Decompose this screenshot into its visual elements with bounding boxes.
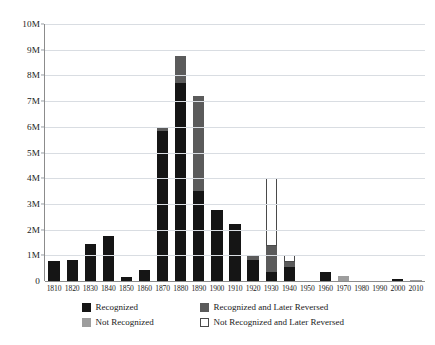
bar-group[interactable]: 1840 <box>103 236 114 281</box>
x-axis-tick-label: 1950 <box>298 284 316 293</box>
y-axis-tick-label: 5M <box>27 147 40 157</box>
gridline: 6M <box>45 127 425 128</box>
bar-chart: 1810182018301840185018601870188018901900… <box>0 0 435 345</box>
legend-item[interactable]: Not Recognized <box>82 318 200 327</box>
y-axis-tick-mark <box>41 126 44 127</box>
bar-segment <box>284 267 295 281</box>
y-axis-tick-label: 7M <box>27 96 40 106</box>
legend-item[interactable]: Not Recognized and Later Reversed <box>200 318 412 327</box>
legend-label: Not Recognized <box>96 318 154 327</box>
chart-legend: RecognizedRecognized and Later ReversedN… <box>82 300 412 330</box>
bar-group[interactable]: 1820 <box>67 260 78 281</box>
gridline: 3M <box>45 204 425 205</box>
gridline: 10M <box>45 24 425 25</box>
bar-segment <box>175 83 186 281</box>
axis-baseline: 0 <box>45 281 425 282</box>
bar-group[interactable]: 1830 <box>85 244 96 281</box>
y-axis-tick-mark <box>41 75 44 76</box>
bar-segment <box>103 236 114 281</box>
y-axis-tick-mark <box>41 49 44 50</box>
y-axis-tick-label: 10M <box>22 19 40 29</box>
bar-segment <box>157 128 168 130</box>
legend-swatch-icon <box>82 318 91 327</box>
bar-segment <box>247 260 258 281</box>
bar-segment <box>48 261 59 281</box>
legend-label: Not Recognized and Later Reversed <box>214 318 344 327</box>
y-axis-tick-mark <box>41 152 44 153</box>
x-axis-tick-label: 1900 <box>208 284 226 293</box>
y-axis-tick-label: 8M <box>27 70 40 80</box>
y-axis-tick-mark <box>41 229 44 230</box>
legend-item[interactable]: Recognized and Later Reversed <box>200 303 412 312</box>
x-axis-tick-label: 1880 <box>172 284 190 293</box>
bar-segment <box>266 272 277 281</box>
x-axis-tick-label: 1990 <box>371 284 389 293</box>
bar-segment <box>266 178 277 246</box>
y-axis-tick-label: 4M <box>27 173 40 183</box>
y-axis-tick-mark <box>41 203 44 204</box>
bar-segment <box>175 56 186 83</box>
x-axis-tick-label: 1830 <box>81 284 99 293</box>
bar-group[interactable]: 1810 <box>48 261 59 281</box>
y-axis-tick-mark <box>41 178 44 179</box>
bar-group[interactable]: 1900 <box>211 210 222 281</box>
bar-segment <box>229 224 240 281</box>
gridline: 5M <box>45 153 425 154</box>
y-axis-tick-label: 0 <box>35 276 40 286</box>
x-axis-tick-label: 1810 <box>45 284 63 293</box>
bar-segment <box>85 244 96 281</box>
x-axis-tick-label: 1970 <box>335 284 353 293</box>
x-axis-tick-label: 1890 <box>190 284 208 293</box>
y-axis-tick-mark <box>41 23 44 24</box>
bar-segment <box>320 272 331 281</box>
bar-group[interactable]: 1880 <box>175 56 186 281</box>
bar-segment <box>67 260 78 281</box>
gridline: 4M <box>45 178 425 179</box>
x-axis-tick-label: 1930 <box>262 284 280 293</box>
x-axis-tick-label: 1840 <box>99 284 117 293</box>
y-axis-tick-mark <box>41 101 44 102</box>
legend-label: Recognized <box>96 303 138 312</box>
legend-swatch-icon <box>82 303 91 312</box>
y-axis-tick-label: 2M <box>27 224 40 234</box>
x-axis-tick-label: 1960 <box>316 284 334 293</box>
x-axis-tick-label: 1910 <box>226 284 244 293</box>
x-axis-tick-label: 1820 <box>63 284 81 293</box>
y-axis-tick-label: 6M <box>27 122 40 132</box>
legend-label: Recognized and Later Reversed <box>214 303 329 312</box>
bar-group[interactable]: 1860 <box>139 270 150 281</box>
x-axis-tick-label: 1980 <box>353 284 371 293</box>
x-axis-tick-label: 1860 <box>135 284 153 293</box>
x-axis-tick-label: 2000 <box>389 284 407 293</box>
bar-group[interactable]: 1940 <box>284 255 295 281</box>
gridline: 7M <box>45 101 425 102</box>
bar-group[interactable]: 1960 <box>320 272 331 281</box>
bar-group[interactable]: 1910 <box>229 224 240 281</box>
legend-item[interactable]: Recognized <box>82 303 200 312</box>
x-axis-tick-label: 2010 <box>407 284 425 293</box>
gridline: 9M <box>45 50 425 51</box>
x-axis-tick-label: 1920 <box>244 284 262 293</box>
x-axis-tick-label: 1850 <box>117 284 135 293</box>
gridline: 8M <box>45 75 425 76</box>
bar-segment <box>139 270 150 281</box>
bar-segment <box>211 210 222 281</box>
y-axis-tick-label: 1M <box>27 250 40 260</box>
bar-group[interactable]: 1890 <box>193 96 204 281</box>
plot-area: 1810182018301840185018601870188018901900… <box>44 24 425 281</box>
y-axis-tick-mark <box>41 255 44 256</box>
y-axis-tick-label: 3M <box>27 199 40 209</box>
bar-segment <box>193 96 204 191</box>
x-axis-tick-label: 1940 <box>280 284 298 293</box>
legend-swatch-icon <box>200 303 209 312</box>
bar-segment <box>284 262 295 267</box>
bar-segment <box>266 246 277 272</box>
legend-swatch-icon <box>200 318 209 327</box>
x-axis-tick-label: 1870 <box>154 284 172 293</box>
bar-group[interactable]: 1920 <box>247 255 258 281</box>
gridline: 2M <box>45 230 425 231</box>
gridline: 1M <box>45 255 425 256</box>
y-axis-tick-label: 9M <box>27 44 40 54</box>
